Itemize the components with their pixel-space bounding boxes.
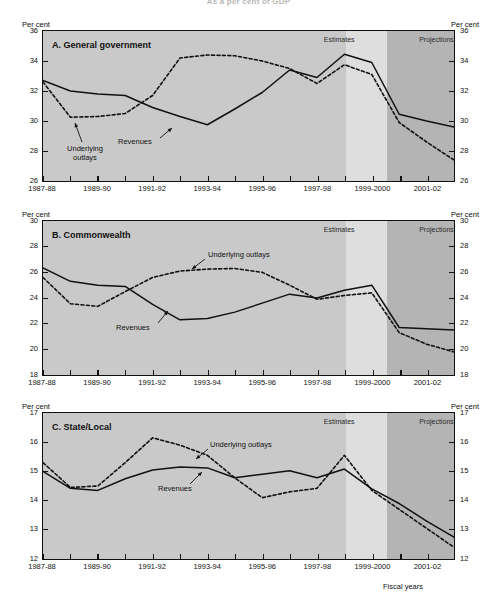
y-axis-label: 32 [16, 87, 38, 95]
panel-b-plot-area: EstimatesProjections [42, 220, 455, 376]
y-axis-tick [43, 500, 48, 501]
x-axis-tick [235, 370, 236, 375]
x-axis-label: 1987-88 [23, 563, 61, 571]
y-axis-tick [449, 471, 454, 472]
series-line-underlying-outlays [43, 438, 454, 548]
figure-chart-of-gdp-shares: As a per cent of GDP Per cent Per cent E… [0, 0, 497, 598]
x-axis-tick [42, 370, 43, 375]
x-axis-label: 1997-98 [298, 379, 336, 387]
y-axis-tick [43, 323, 48, 324]
y-axis-label: 30 [460, 217, 468, 225]
x-axis-label: 1995-96 [243, 185, 281, 193]
y-axis-tick [449, 529, 454, 530]
y-axis-label: 26 [16, 268, 38, 276]
y-axis-label: 16 [460, 438, 468, 446]
y-axis-label: 17 [460, 409, 468, 417]
x-axis-tick [153, 176, 154, 181]
y-axis-label: 28 [16, 242, 38, 250]
annotation-underlying-outlays-c: Underlying outlays [210, 440, 272, 449]
x-axis-tick [318, 370, 319, 375]
x-axis-tick [97, 370, 98, 375]
y-axis-tick [43, 349, 48, 350]
y-axis-label: 20 [16, 345, 38, 353]
x-axis-label: 2001-02 [408, 563, 446, 571]
x-axis-tick [318, 554, 319, 559]
x-axis-tick [345, 370, 346, 375]
y-axis-label: 17 [16, 409, 38, 417]
x-axis-tick [400, 554, 401, 559]
y-axis-tick [449, 323, 454, 324]
x-axis-tick [97, 176, 98, 181]
x-axis-label: 1995-96 [243, 379, 281, 387]
y-axis-label: 13 [16, 525, 38, 533]
series-line-revenues [43, 467, 454, 537]
x-axis-tick [208, 176, 209, 181]
y-axis-label: 16 [16, 438, 38, 446]
x-axis-tick [208, 370, 209, 375]
x-axis-tick [263, 370, 264, 375]
y-axis-label: 24 [16, 294, 38, 302]
x-axis-label: 2001-02 [408, 185, 446, 193]
y-axis-label: 20 [460, 345, 468, 353]
y-axis-tick [43, 471, 48, 472]
y-axis-label: 14 [460, 496, 468, 504]
x-axis-tick [70, 176, 71, 181]
y-axis-label: 26 [460, 268, 468, 276]
x-axis-label: 1989-90 [78, 379, 116, 387]
y-axis-label: 36 [16, 27, 38, 35]
y-axis-tick [43, 298, 48, 299]
y-axis-label: 28 [16, 147, 38, 155]
x-axis-tick [263, 554, 264, 559]
y-axis-tick [449, 61, 454, 62]
series-lines [43, 221, 454, 375]
x-axis-label: 1999-2000 [353, 185, 391, 193]
x-axis-tick [180, 554, 181, 559]
x-axis-tick [400, 176, 401, 181]
x-axis-label: 1991-92 [133, 563, 171, 571]
x-axis-tick [373, 370, 374, 375]
figure-title: As a per cent of GDP [0, 0, 497, 6]
series-line-revenues [43, 268, 454, 330]
panel-b-caption: B. Commonwealth [52, 230, 131, 240]
x-axis-title: Fiscal years [383, 582, 423, 591]
x-axis-label: 1987-88 [23, 379, 61, 387]
x-axis-tick [70, 370, 71, 375]
y-axis-tick [449, 151, 454, 152]
x-axis-tick [208, 554, 209, 559]
x-axis-label: 1991-92 [133, 185, 171, 193]
y-axis-tick [449, 298, 454, 299]
x-axis-tick [235, 176, 236, 181]
x-axis-tick [180, 370, 181, 375]
chart-panel-c: Per cent Per cent EstimatesProjections C… [0, 398, 497, 598]
x-axis-tick [125, 176, 126, 181]
y-axis-label: 30 [16, 217, 38, 225]
y-axis-tick [43, 529, 48, 530]
y-axis-label: 13 [460, 525, 468, 533]
y-axis-label: 26 [16, 177, 38, 185]
x-axis-tick [428, 176, 429, 181]
x-axis-tick [373, 176, 374, 181]
y-axis-tick [43, 246, 48, 247]
y-axis-tick [43, 272, 48, 273]
panel-c-caption: C. State/Local [52, 422, 112, 432]
y-axis-tick [449, 349, 454, 350]
x-axis-label: 1999-2000 [353, 563, 391, 571]
x-axis-label: 1997-98 [298, 563, 336, 571]
y-axis-tick [449, 246, 454, 247]
x-axis-tick [153, 370, 154, 375]
x-axis-tick [70, 554, 71, 559]
x-axis-label: 1995-96 [243, 563, 281, 571]
x-axis-label: 2001-02 [408, 379, 446, 387]
x-axis-tick [42, 176, 43, 181]
y-axis-label: 30 [460, 117, 468, 125]
x-axis-tick [125, 370, 126, 375]
x-axis-tick [263, 176, 264, 181]
x-axis-tick [290, 554, 291, 559]
x-axis-tick [97, 554, 98, 559]
x-axis-label: 1993-94 [188, 185, 226, 193]
y-axis-tick [43, 442, 48, 443]
panel-a-caption: A. General government [52, 40, 151, 50]
y-axis-tick [43, 151, 48, 152]
y-axis-label: 36 [460, 27, 468, 35]
x-axis-tick [42, 554, 43, 559]
